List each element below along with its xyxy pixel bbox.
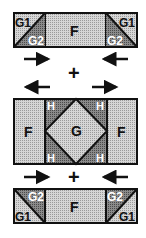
bottom-center-f-label: F — [70, 199, 79, 215]
quilt-assembly-diagram: G1 G2 F G1 G2 + F G F H H H H + — [0, 0, 146, 238]
top-right-g2-label: G2 — [107, 34, 123, 48]
h-label-top-left: H — [47, 100, 55, 112]
top-left-g1-label: G1 — [15, 16, 31, 30]
bottom-left-g1-label: G1 — [15, 210, 31, 224]
h-label-bottom-right: H — [96, 152, 104, 164]
top-row: G1 G2 F G1 G2 — [14, 13, 137, 48]
h-label-top-right: H — [96, 100, 104, 112]
middle-center-g-label: G — [71, 123, 82, 139]
bottom-right-g2-label: G2 — [107, 190, 123, 204]
middle-right-f-label: F — [117, 124, 126, 140]
bottom-right-g1-label: G1 — [119, 210, 135, 224]
bottom-row: G2 G1 F G2 G1 — [14, 189, 137, 224]
plus-operator-1: + — [68, 62, 80, 84]
bottom-left-g2-label: G2 — [28, 190, 44, 204]
plus-operator-2: + — [68, 166, 80, 188]
middle-row: F G F H H H H — [14, 99, 137, 164]
middle-left-f-label: F — [24, 124, 33, 140]
h-label-bottom-left: H — [47, 152, 55, 164]
top-left-g2-label: G2 — [28, 34, 44, 48]
top-center-f-label: F — [70, 23, 79, 39]
top-right-g1-label: G1 — [119, 16, 135, 30]
